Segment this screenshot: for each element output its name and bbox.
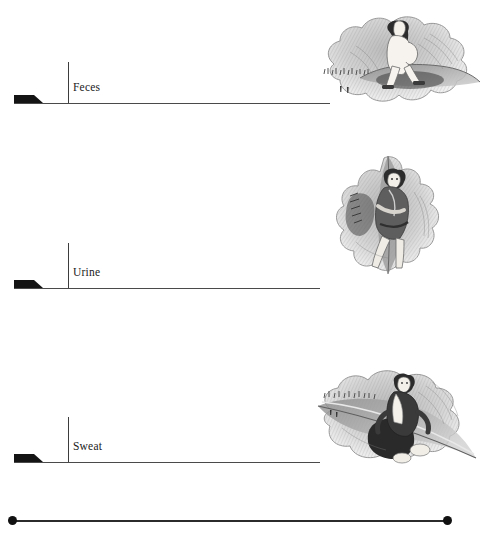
row-baseline: [14, 103, 330, 104]
row-tick-mark: [68, 62, 69, 103]
axis-line: [12, 520, 448, 522]
axis-endpoint-dot-left: [8, 516, 17, 525]
row-bar-marker: [14, 95, 34, 103]
person-squatting-on-leaf-sketch: [300, 8, 486, 116]
row-label-feces: Feces: [73, 82, 100, 94]
row-label-sweat: Sweat: [73, 441, 102, 453]
diagram-canvas: Feces Urine Sweat: [0, 0, 490, 536]
row-bar-marker: [14, 454, 34, 462]
person-reclining-on-leaf-sketch: [298, 362, 486, 484]
row-tick-mark: [68, 417, 69, 462]
axis-endpoint-dot-right: [443, 516, 452, 525]
row-baseline: [14, 462, 320, 463]
row-label-urine: Urine: [73, 267, 100, 279]
person-seated-on-leaf-sketch: [326, 152, 466, 282]
row-baseline: [14, 288, 320, 289]
bottom-scale-axis: [6, 512, 454, 528]
row-bar-marker: [14, 280, 34, 288]
row-tick-mark: [68, 243, 69, 288]
